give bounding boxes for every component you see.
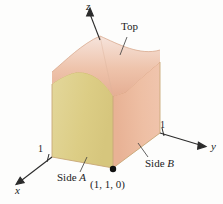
diagram-svg xyxy=(0,0,223,204)
side-a-face xyxy=(52,72,113,168)
figure-canvas: z y x 1 1 Top Side A Side B (1, 1, 0) xyxy=(0,0,223,204)
y-axis-arrowhead xyxy=(198,142,206,149)
x-axis-label: x xyxy=(15,185,20,196)
y-axis-label: y xyxy=(211,141,216,152)
top-label: Top xyxy=(121,21,138,32)
corner-point-dot xyxy=(110,166,116,172)
z-axis-line xyxy=(90,14,100,40)
x-tick-mark xyxy=(47,154,49,162)
z-axis-label: z xyxy=(86,1,90,12)
corner-point-label: (1, 1, 0) xyxy=(90,179,125,190)
y-axis-line xyxy=(160,133,200,145)
x-tick-1-label: 1 xyxy=(38,144,43,154)
side-a-label: Side A xyxy=(57,172,86,183)
y-tick-1-label: 1 xyxy=(160,120,165,130)
side-b-label: Side B xyxy=(145,158,174,169)
